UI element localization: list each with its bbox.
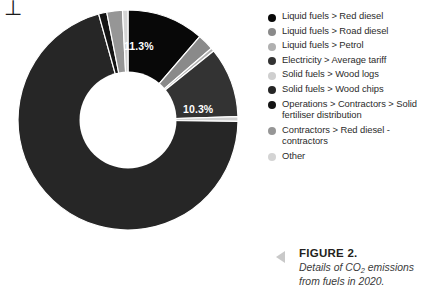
caption-desc-part1: Details of CO [299,262,361,273]
legend-item[interactable]: Operations > Contractors > Solid fertili… [268,98,427,121]
legend-dot-icon [268,153,276,161]
legend-dot-icon [268,86,276,94]
legend-dot-icon [268,101,276,109]
legend-dot-icon [268,57,276,65]
legend-item-label: Liquid fuels > Petrol [282,39,427,51]
legend-item-label: Solid fuels > Wood chips [282,83,427,95]
legend-item[interactable]: Other [268,150,427,162]
legend-dot-icon [268,14,276,22]
donut-hole [80,72,177,169]
slice-label-red-diesel: 11.3% [124,40,154,52]
figure-caption-title: FIGURE 2. [299,246,427,260]
legend-item[interactable]: Solid fuels > Wood chips [268,83,427,95]
legend-dot-icon [268,127,276,135]
legend-item[interactable]: Solid fuels > Wood logs [268,68,427,80]
chart-legend: Liquid fuels > Red dieselLiquid fuels > … [268,10,427,165]
legend-item[interactable]: Liquid fuels > Road diesel [268,25,427,37]
legend-item-label: Other [282,150,427,162]
legend-item-label: Liquid fuels > Road diesel [282,25,427,37]
legend-dot-icon [268,28,276,36]
figure-caption-description: Details of CO2 emissions from fuels in 2… [299,262,427,288]
legend-dot-icon [268,72,276,80]
legend-item-label: Operations > Contractors > Solid fertili… [282,98,427,121]
slice-label-wood-chips: 70.5% [25,218,55,230]
legend-item-label: Contractors > Red diesel - contractors [282,124,427,147]
legend-item[interactable]: Liquid fuels > Petrol [268,39,427,51]
donut-chart: 11.3% 10.3% 70.5% [0,0,240,296]
triangle-left-icon [276,251,285,263]
legend-item[interactable]: Contractors > Red diesel - contractors [268,124,427,147]
slice-label-electricity: 10.3% [183,103,213,115]
caption-desc-subscript: 2 [361,266,365,275]
legend-item-label: Solid fuels > Wood logs [282,68,427,80]
legend-dot-icon [268,43,276,51]
legend-item-label: Liquid fuels > Red diesel [282,10,427,22]
figure-caption-body: FIGURE 2. Details of CO2 emissions from … [299,246,427,288]
figure-caption: FIGURE 2. Details of CO2 emissions from … [276,246,427,288]
legend-item[interactable]: Liquid fuels > Red diesel [268,10,427,22]
legend-item[interactable]: Electricity > Average tariff [268,54,427,66]
legend-item-label: Electricity > Average tariff [282,54,427,66]
